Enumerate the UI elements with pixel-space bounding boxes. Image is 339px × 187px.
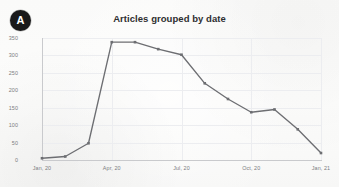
data-point-marker	[110, 41, 113, 44]
x-axis-tick-label: Jan, 20	[20, 166, 64, 171]
data-point-marker	[157, 48, 160, 51]
y-axis-tick-label: 250	[0, 71, 18, 76]
data-point-marker	[134, 41, 137, 44]
line-series-svg	[42, 38, 321, 160]
data-point-marker	[273, 108, 276, 111]
data-point-marker	[227, 98, 230, 101]
x-axis-tick-label: Jan, 21	[299, 166, 339, 171]
plot-area: 050100150200250300350 Jan, 20Apr, 20Jul,…	[42, 38, 321, 160]
x-axis-tick-label: Jul, 20	[160, 166, 204, 171]
data-point-marker	[180, 53, 183, 56]
data-point-marker	[87, 142, 90, 145]
y-axis-tick-label: 350	[0, 36, 18, 41]
data-point-marker	[203, 82, 206, 85]
y-axis-tick-label: 100	[0, 123, 18, 128]
gridline-vertical	[321, 38, 322, 160]
y-axis-tick-label: 50	[0, 141, 18, 146]
data-point-marker	[250, 111, 253, 114]
y-axis-tick-label: 200	[0, 88, 18, 93]
series-line-articles	[42, 42, 321, 158]
chart-page: A Articles grouped by date 0501001502002…	[0, 0, 339, 187]
data-point-marker	[296, 128, 299, 131]
x-axis-tick-label: Apr, 20	[90, 166, 134, 171]
y-axis-tick-label: 0	[0, 158, 18, 163]
y-axis-tick-label: 150	[0, 106, 18, 111]
y-axis-tick-label: 300	[0, 53, 18, 58]
data-point-marker	[320, 152, 323, 155]
data-point-marker	[64, 155, 67, 158]
x-axis-tick-label: Oct, 20	[229, 166, 273, 171]
data-point-marker	[41, 157, 44, 160]
series-markers-articles	[41, 41, 323, 160]
chart-title: Articles grouped by date	[0, 13, 339, 24]
